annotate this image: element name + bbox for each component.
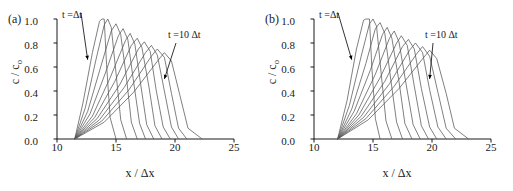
- panel-a: (a) 1.0 0.8 0.6 0.4 0.2 0.0 10 15 20 25 …: [0, 0, 256, 191]
- panel-b: (b) 1.0 0.8 0.6 0.4 0.2 0.0 10 15 20 25 …: [257, 0, 513, 191]
- panel-a-plot: [0, 0, 256, 191]
- panel-b-plot: [257, 0, 513, 191]
- figure-container: (a) 1.0 0.8 0.6 0.4 0.2 0.0 10 15 20 25 …: [0, 0, 513, 191]
